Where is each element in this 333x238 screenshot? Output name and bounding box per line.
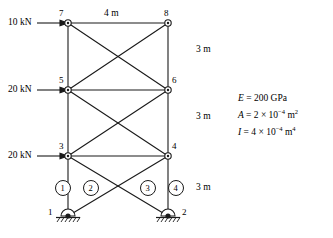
element-number-2: 2 — [89, 184, 93, 193]
property-eq-I: = — [244, 127, 249, 137]
element-number-1: 1 — [61, 184, 65, 193]
property-symbol-A: A — [238, 110, 244, 120]
property-unit-A: m — [287, 110, 294, 120]
load-arrow-node-5 — [37, 87, 68, 93]
node-label-2: 2 — [182, 208, 187, 217]
property-symbol-I: I — [238, 127, 241, 137]
node-label-8: 8 — [164, 9, 169, 18]
property-base-A: 10 — [269, 110, 279, 120]
property-area: A = 2 × 10−4 m2 — [238, 105, 298, 122]
property-moment-of-inertia: I = 4 × 10−4 m4 — [238, 122, 298, 139]
element-number-4: 4 — [174, 184, 178, 193]
load-arrow-node-3 — [37, 153, 68, 159]
dimension-label-storey-bottom: 3 m — [196, 183, 211, 193]
node-label-7: 7 — [59, 9, 64, 18]
property-value-E: 200 GPa — [254, 93, 287, 103]
element-number-3: 3 — [146, 184, 150, 193]
dimension-label-storey-top: 3 m — [196, 45, 211, 55]
node-label-4: 4 — [172, 142, 177, 151]
load-label-node-3: 20 kN — [8, 151, 32, 161]
property-exponent-I: −4 — [276, 125, 283, 132]
node-label-1: 1 — [48, 208, 53, 217]
dimension-label-span: 4 m — [104, 9, 119, 19]
property-unit-exponent-A: 2 — [295, 108, 298, 115]
property-exponent-A: −4 — [278, 108, 285, 115]
joint-dot-3 — [67, 155, 69, 157]
multiplication-sign-icon-I: × — [258, 127, 263, 137]
material-properties: E = 200 GPa A = 2 × 10−4 m2 I = 4 × 10−4… — [238, 92, 298, 139]
joint-dot-8 — [167, 22, 169, 24]
joint-dot-5 — [67, 89, 69, 91]
dimension-label-storey-middle: 3 m — [196, 112, 211, 122]
joint-dot-6 — [167, 89, 169, 91]
load-label-node-5: 20 kN — [8, 85, 32, 95]
property-unit-exponent-I: 4 — [292, 125, 295, 132]
property-eq-E: = — [246, 93, 251, 103]
joint-dot-4 — [167, 155, 169, 157]
node-label-3: 3 — [59, 142, 64, 151]
load-label-node-7: 10 kN — [8, 18, 32, 28]
property-symbol-E: E — [238, 93, 244, 103]
property-mantissa-A: 2 — [254, 110, 259, 120]
node-label-6: 6 — [172, 76, 177, 85]
property-youngs-modulus: E = 200 GPa — [238, 92, 298, 105]
load-arrow-node-7 — [37, 20, 68, 26]
node-label-5: 5 — [59, 76, 64, 85]
joint-dot-7 — [67, 22, 69, 24]
property-base-I: 10 — [266, 127, 276, 137]
property-eq-A: = — [246, 110, 251, 120]
multiplication-sign-icon-A: × — [261, 110, 266, 120]
property-mantissa-I: 4 — [251, 127, 256, 137]
